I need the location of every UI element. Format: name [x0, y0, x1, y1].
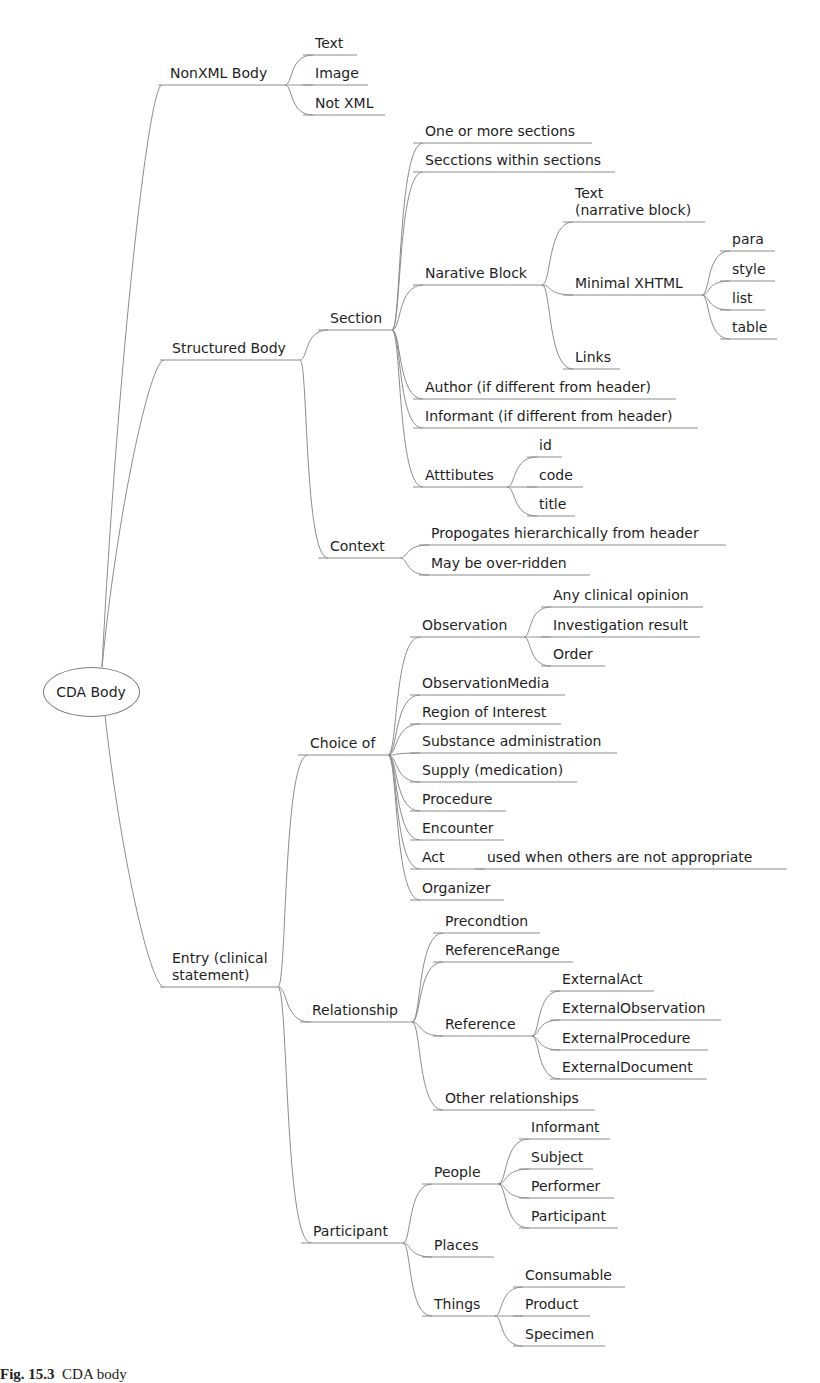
node-supply[interactable]: Supply (medication)	[422, 762, 563, 779]
node-p-informant[interactable]: Informant	[531, 1119, 600, 1136]
root-node-cda-body[interactable]: CDA Body	[43, 667, 140, 717]
node-participant[interactable]: Participant	[313, 1223, 388, 1240]
node-nb-xhtml[interactable]: Minimal XHTML	[575, 275, 683, 292]
node-s-author[interactable]: Author (if different from header)	[425, 379, 651, 396]
node-r-precond[interactable]: Precondtion	[445, 913, 528, 930]
node-o-opinion[interactable]: Any clinical opinion	[553, 587, 689, 604]
node-o-result[interactable]: Investigation result	[553, 617, 688, 634]
node-narrative[interactable]: Narative Block	[425, 265, 527, 282]
node-p-subject[interactable]: Subject	[531, 1149, 583, 1166]
node-p-participant[interactable]: Participant	[531, 1208, 606, 1225]
node-organizer[interactable]: Organizer	[422, 880, 490, 897]
node-t-specimen[interactable]: Specimen	[525, 1326, 594, 1343]
caption-text: CDA body	[62, 1366, 127, 1382]
node-s-one[interactable]: One or more sections	[425, 123, 575, 140]
node-a-code[interactable]: code	[539, 467, 573, 484]
node-obsmedia[interactable]: ObservationMedia	[422, 675, 549, 692]
node-nb-text[interactable]: Text(narrative block)	[575, 185, 691, 219]
node-nx-notxml[interactable]: Not XML	[315, 95, 373, 112]
node-entry[interactable]: Entry (clinicalstatement)	[172, 950, 268, 984]
mind-map-canvas: CDA Body NonXML BodyTextImageNot XMLStru…	[0, 0, 820, 1383]
node-choice[interactable]: Choice of	[310, 735, 375, 752]
node-a-title[interactable]: title	[539, 496, 566, 513]
node-procedure[interactable]: Procedure	[422, 791, 492, 808]
caption-prefix: Fig. 15.3	[0, 1366, 55, 1382]
node-section[interactable]: Section	[330, 310, 382, 327]
node-things[interactable]: Things	[434, 1296, 480, 1313]
node-ref-doc[interactable]: ExternalDocument	[562, 1059, 693, 1076]
node-nx-text[interactable]: Text	[315, 35, 343, 52]
node-r-other[interactable]: Other relationships	[445, 1090, 579, 1107]
node-act[interactable]: Act	[422, 849, 445, 866]
node-x-list[interactable]: list	[732, 290, 753, 307]
node-reference[interactable]: Reference	[445, 1016, 516, 1033]
node-o-order[interactable]: Order	[553, 646, 593, 663]
node-attributes[interactable]: Atttibutes	[425, 467, 494, 484]
node-ref-act[interactable]: ExternalAct	[562, 971, 643, 988]
node-context[interactable]: Context	[330, 538, 385, 555]
node-nx-image[interactable]: Image	[315, 65, 359, 82]
node-act-note[interactable]: used when others are not appropriate	[487, 849, 752, 866]
node-nb-links[interactable]: Links	[575, 349, 611, 366]
node-encounter[interactable]: Encounter	[422, 820, 494, 837]
node-s-within[interactable]: Secctions within sections	[425, 152, 601, 169]
node-places[interactable]: Places	[434, 1237, 479, 1254]
figure-caption: Fig. 15.3 CDA body	[0, 1366, 127, 1383]
node-x-para[interactable]: para	[732, 231, 764, 248]
node-c-prop[interactable]: Propogates hierarchically from header	[431, 525, 699, 542]
node-s-informant[interactable]: Informant (if different from header)	[425, 408, 673, 425]
node-r-refrange[interactable]: ReferenceRange	[445, 942, 560, 959]
node-p-performer[interactable]: Performer	[531, 1178, 600, 1195]
node-x-style[interactable]: style	[732, 261, 766, 278]
root-node-label: CDA Body	[56, 684, 126, 700]
node-substance[interactable]: Substance administration	[422, 733, 601, 750]
node-relationship[interactable]: Relationship	[312, 1002, 398, 1019]
node-x-table[interactable]: table	[732, 319, 767, 336]
node-ref-proc[interactable]: ExternalProcedure	[562, 1030, 690, 1047]
node-t-consumable[interactable]: Consumable	[525, 1267, 612, 1284]
node-nonxml[interactable]: NonXML Body	[170, 65, 267, 82]
node-observation[interactable]: Observation	[422, 617, 507, 634]
node-people[interactable]: People	[434, 1164, 481, 1181]
node-ref-obs[interactable]: ExternalObservation	[562, 1000, 705, 1017]
node-a-id[interactable]: id	[539, 437, 552, 454]
node-c-over[interactable]: May be over-ridden	[431, 555, 567, 572]
node-t-product[interactable]: Product	[525, 1296, 578, 1313]
node-roi[interactable]: Region of Interest	[422, 704, 546, 721]
node-structured[interactable]: Structured Body	[172, 340, 286, 357]
